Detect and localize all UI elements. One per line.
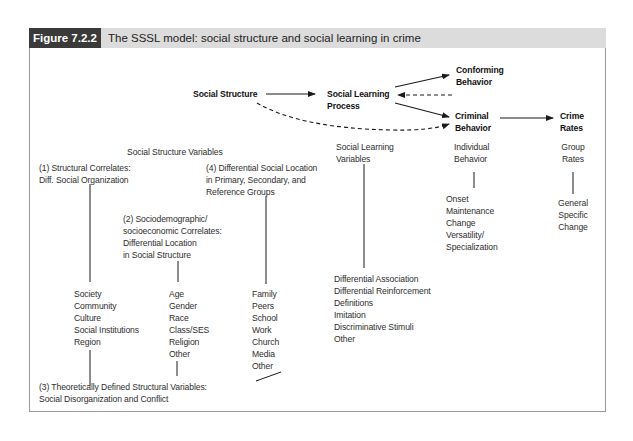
node-social-structure: Social Structure [193,88,257,100]
arrow-learning-to-criminal [395,103,449,117]
heading-social-structure-variables: Social Structure Variables [127,146,223,158]
sociodemographic-items: Age Gender Race Class/SES Religion Other [169,288,209,360]
arrow-learning-to-conforming [395,75,449,87]
heading-individual-behavior: Individual Behavior [454,141,489,165]
heading-group-rates: Group Rates [553,141,593,165]
node-social-learning-process: Social Learning Process [327,88,390,112]
individual-behavior-items: Onset Maintenance Change Versatility/ Sp… [446,193,498,253]
differential-location-items: Family Peers School Work Church Media Ot… [252,288,279,372]
social-learning-items: Differential Association Differential Re… [334,273,431,345]
theoretical-structural-heading: (3) Theoretically Defined Structural Var… [39,381,207,405]
structural-correlates-heading: (1) Structural Correlates: Diff. Social … [39,162,130,186]
structural-correlates-items: Society Community Culture Social Institu… [74,288,139,348]
diagram-connectors [0,0,633,441]
node-criminal-behavior: Criminal Behavior [455,110,491,134]
group-rates-items: General Specific Change [550,197,596,233]
sociodemographic-heading: (2) Sociodemographic/ socioeconomic Corr… [123,213,222,261]
node-conforming-behavior: Conforming Behavior [456,64,504,88]
node-crime-rates: Crime Rates [560,110,584,134]
heading-social-learning-variables: Social Learning Variables [336,141,394,165]
differential-location-heading: (4) Differential Social Location in Prim… [206,162,317,198]
